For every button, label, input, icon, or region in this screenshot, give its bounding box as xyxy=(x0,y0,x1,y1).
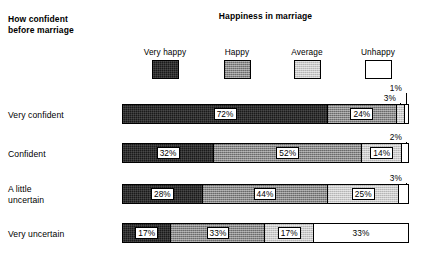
bar-segment-unhappy[interactable]: 33% xyxy=(314,224,408,242)
segment-value-label: 14% xyxy=(370,147,393,159)
row-label-very-uncertain: Very uncertain xyxy=(8,229,64,240)
swatch-unhappy-icon xyxy=(365,60,392,79)
bar-segment-very-happy[interactable]: 28% xyxy=(123,185,203,203)
callout-leader-line xyxy=(400,103,401,105)
swatch-average-icon xyxy=(294,60,321,79)
bar-segment-average[interactable]: 14% xyxy=(362,144,402,162)
legend-item-label: Unhappy xyxy=(343,47,413,57)
callout-unhappy-3: 3% xyxy=(372,174,402,183)
swatch-happy-icon xyxy=(224,60,251,79)
legend-item-label: Happy xyxy=(202,47,272,57)
bar-row-very-uncertain[interactable]: 17%33%17%33% xyxy=(122,223,409,243)
segment-value-label: 17% xyxy=(135,227,158,239)
legend-item-happy[interactable]: Happy xyxy=(202,47,272,79)
bar-segment-happy[interactable]: 44% xyxy=(203,185,328,203)
legend-item-label: Very happy xyxy=(130,47,200,57)
segment-value-label: 17% xyxy=(278,227,301,239)
bar-segment-very-happy[interactable]: 17% xyxy=(123,224,171,242)
legend: Very happyHappyAverageUnhappy xyxy=(122,47,409,90)
legend-item-very-happy[interactable]: Very happy xyxy=(130,47,200,79)
row-group-title: How confident before marriage xyxy=(8,14,74,36)
row-label-confident: Confident xyxy=(8,149,46,160)
segment-value-label: 33% xyxy=(352,229,369,238)
legend-item-unhappy[interactable]: Unhappy xyxy=(343,47,413,79)
bar-segment-happy[interactable]: 24% xyxy=(328,105,396,123)
bar-segment-unhappy[interactable] xyxy=(399,185,408,203)
callout-leader-line xyxy=(406,183,407,185)
callout-leader-line xyxy=(406,142,407,144)
bar-segment-very-happy[interactable]: 32% xyxy=(123,144,214,162)
row-label-a-little-uncertain: A little uncertain xyxy=(8,184,44,206)
segment-value-label: 32% xyxy=(157,147,180,159)
segment-value-label: 72% xyxy=(214,108,237,120)
bar-segment-average[interactable] xyxy=(397,105,406,123)
chart-container: How confident before marriage Happiness … xyxy=(0,0,428,264)
bar-segment-average[interactable]: 17% xyxy=(265,224,313,242)
bar-segment-happy[interactable]: 33% xyxy=(171,224,265,242)
bar-segment-happy[interactable]: 52% xyxy=(214,144,362,162)
row-label-very-confident: Very confident xyxy=(8,110,64,121)
bar-segment-unhappy[interactable] xyxy=(405,105,408,123)
bar-row-very-confident[interactable]: 72%24% xyxy=(122,104,409,124)
callout-average-3: 3% xyxy=(366,94,396,103)
callout-leader-line xyxy=(406,93,407,104)
bar-segment-unhappy[interactable] xyxy=(402,144,408,162)
callout-unhappy-1: 1% xyxy=(372,84,402,93)
bar-segment-average[interactable]: 25% xyxy=(328,185,399,203)
segment-value-label: 33% xyxy=(207,227,230,239)
bar-row-a-little-uncertain[interactable]: 28%44%25% xyxy=(122,184,409,204)
page-title: Happiness in marriage xyxy=(122,11,409,22)
segment-value-label: 24% xyxy=(350,108,373,120)
bar-segment-very-happy[interactable]: 72% xyxy=(123,105,328,123)
segment-value-label: 28% xyxy=(151,188,174,200)
segment-value-label: 44% xyxy=(254,188,277,200)
swatch-very-happy-icon xyxy=(152,60,179,79)
bar-row-confident[interactable]: 32%52%14% xyxy=(122,143,409,163)
legend-item-label: Average xyxy=(272,47,342,57)
callout-unhappy-2: 2% xyxy=(372,133,402,142)
segment-value-label: 52% xyxy=(276,147,299,159)
segment-value-label: 25% xyxy=(352,188,375,200)
legend-item-average[interactable]: Average xyxy=(272,47,342,79)
